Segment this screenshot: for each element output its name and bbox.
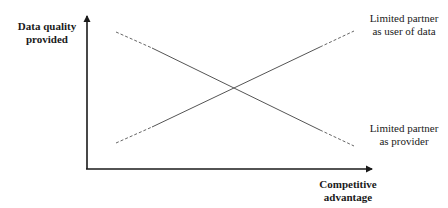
user-line-label: Limited partner as user of data <box>360 12 448 38</box>
provider-line-label: Limited partner as provider <box>360 122 448 148</box>
y-axis-label: Data quality provided <box>14 20 80 46</box>
user-line <box>116 31 354 143</box>
provider-line <box>116 32 354 146</box>
x-axis-label: Competitive advantage <box>306 178 390 204</box>
